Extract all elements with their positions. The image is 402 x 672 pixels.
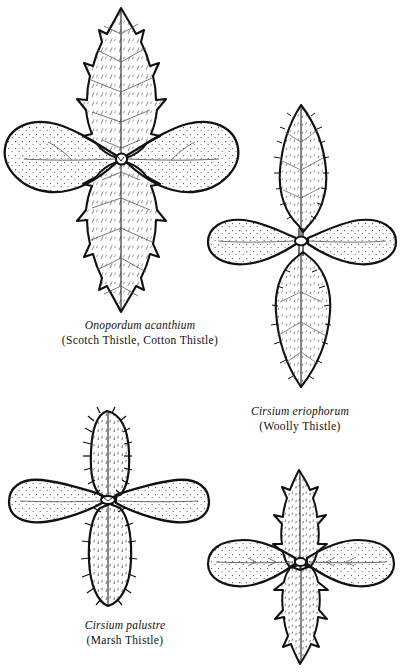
scientific-name: Cirsium eriophorum <box>200 404 400 419</box>
true-leaf-upper <box>83 407 132 498</box>
figure-unlabelled-thistle <box>196 462 402 672</box>
cotyledon-right <box>308 220 396 265</box>
growing-point <box>101 496 115 504</box>
figure-onopordum-acanthium <box>0 0 210 320</box>
figure-cirsium-eriophorum <box>196 96 402 396</box>
common-name: (Woolly Thistle) <box>200 419 400 434</box>
true-leaf-lower <box>274 564 328 664</box>
true-leaf-lower <box>271 252 331 387</box>
caption-cirsium-eriophorum: Cirsium eriophorum (Woolly Thistle) <box>200 404 400 433</box>
cotyledon-left <box>9 480 102 523</box>
growing-point <box>295 558 306 566</box>
figure-cirsium-palustre <box>0 402 200 614</box>
growing-point <box>116 153 127 164</box>
true-leaf-upper <box>274 105 329 236</box>
true-leaf-lower <box>81 504 137 606</box>
cotyledon-left <box>208 220 296 265</box>
growing-point <box>295 237 307 246</box>
botanical-plate: Onopordum acanthium (Scotch Thistle, Cot… <box>0 0 402 672</box>
